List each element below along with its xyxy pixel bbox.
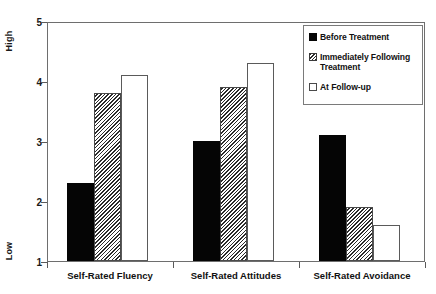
legend-entry-3: At Follow-up [309,82,417,93]
y-tick-mark-4 [41,82,47,83]
category-label-3: Self-Rated Avoidance [314,270,411,281]
legend-swatch-hatch-icon [309,53,317,61]
legend-label-1: Before Treatment [320,32,389,43]
category-label-1: Self-Rated Fluency [67,270,153,281]
legend-entry-2: Immediately Following Treatment [309,52,417,73]
category-label-2: Self-Rated Attitudes [191,270,281,281]
y-axis-high-label: High [4,26,14,56]
y-axis-tick-labels: 12345 [14,0,42,294]
bar-3-3 [373,225,400,261]
bar-2-2 [220,87,247,261]
y-tick-mark-3 [41,142,47,143]
legend-label-3: At Follow-up [320,82,371,93]
legend-swatch-open-icon [309,83,317,91]
legend-entry-1: Before Treatment [309,32,417,43]
x-group-tick-1 [173,262,174,268]
legend-label-2: Immediately Following Treatment [320,52,417,73]
y-tick-2: 2 [20,197,42,208]
x-axis-end-tick-0 [47,262,48,268]
y-tick-1: 1 [20,257,42,268]
bar-3-1 [319,135,346,261]
bar-1-3 [121,75,148,261]
bar-1-1 [67,183,94,261]
y-tick-3: 3 [20,137,42,148]
y-tick-mark-2 [41,202,47,203]
y-tick-5: 5 [20,17,42,28]
bar-2-1 [193,141,220,261]
y-tick-4: 4 [20,77,42,88]
bar-3-2 [346,207,373,261]
bar-chart-figure: High Low 12345 Self-Rated FluencySelf-Ra… [0,0,436,294]
legend-swatch-solid-icon [309,33,317,41]
bar-2-3 [247,63,274,261]
bar-1-2 [94,93,121,261]
chart-legend: Before TreatmentImmediately Following Tr… [303,25,423,105]
x-axis-end-tick-3 [425,262,426,268]
y-tick-mark-5 [41,22,47,23]
y-axis-low-label: Low [4,236,14,266]
x-group-tick-2 [299,262,300,268]
